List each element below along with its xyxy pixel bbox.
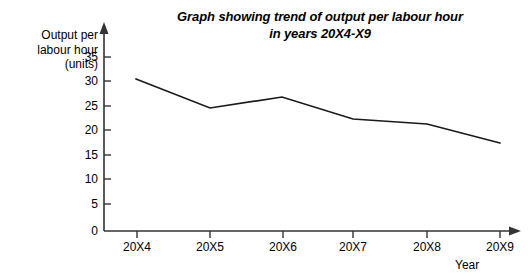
x-axis <box>104 227 521 239</box>
x-axis-ticks <box>137 231 500 238</box>
y-axis-ticks <box>104 57 111 204</box>
plot-area <box>0 0 532 279</box>
line-chart-figure: Graph showing trend of output per labour… <box>0 0 532 279</box>
y-axis <box>100 22 112 231</box>
data-series-line <box>136 79 500 143</box>
